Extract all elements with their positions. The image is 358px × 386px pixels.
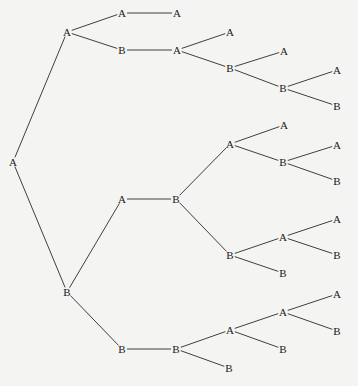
tree-node-a: A <box>226 138 234 150</box>
tree-node-a: A <box>280 45 288 57</box>
tree-node-a: A <box>279 306 287 318</box>
tree-node-a: A <box>333 139 341 151</box>
tree-diagram: AAAABAABABABBABAABABBABABBBABABAB <box>0 0 358 386</box>
tree-edge <box>181 332 226 348</box>
tree-edge <box>288 147 332 161</box>
tree-node-b: B <box>63 286 70 298</box>
tree-node-b: B <box>225 362 232 374</box>
tree-node-b: B <box>118 343 125 355</box>
tree-node-a: A <box>280 119 288 131</box>
tree-node-a: A <box>333 213 341 225</box>
tree-node-a: A <box>279 231 287 243</box>
tree-node-a: A <box>118 7 126 19</box>
tree-node-a: A <box>333 288 341 300</box>
tree-node-b: B <box>279 82 286 94</box>
tree-edge <box>288 164 333 180</box>
tree-node-b: B <box>172 193 179 205</box>
tree-node-a: A <box>333 64 341 76</box>
tree-node-b: B <box>333 249 340 261</box>
tree-node-a: A <box>173 44 181 56</box>
tree-edge <box>235 70 279 86</box>
tree-edge <box>15 37 65 158</box>
tree-edge <box>288 296 333 311</box>
tree-edge <box>288 239 333 254</box>
tree-node-b: B <box>226 249 233 261</box>
tree-edge <box>182 52 226 67</box>
tree-edge <box>235 146 279 161</box>
tree-node-b: B <box>226 62 233 74</box>
tree-edge <box>15 167 65 288</box>
tree-node-b: B <box>279 267 286 279</box>
tree-edge <box>235 257 279 272</box>
tree-edge <box>181 351 225 367</box>
tree-edge <box>70 203 120 287</box>
tree-node-b: B <box>279 156 286 168</box>
tree-edge <box>70 296 118 346</box>
tree-edge <box>235 314 279 329</box>
tree-node-b: B <box>118 44 125 56</box>
tree-edge <box>235 127 280 143</box>
tree-node-b: B <box>279 343 286 355</box>
tree-node-a: A <box>9 156 17 168</box>
tree-node-a: A <box>118 193 126 205</box>
nodes-layer: AAAABAABABABBABAABABBABABBBABABAB <box>9 7 341 374</box>
tree-edge <box>288 72 333 87</box>
tree-node-b: B <box>333 325 340 337</box>
tree-edge <box>179 203 226 252</box>
tree-node-b: B <box>333 175 340 187</box>
tree-edge <box>235 239 279 254</box>
tree-edge <box>72 34 117 49</box>
tree-edge <box>288 90 333 105</box>
tree-edge <box>288 221 333 236</box>
tree-edge <box>182 34 226 49</box>
tree-node-a: A <box>226 26 234 38</box>
tree-edge <box>235 332 279 348</box>
tree-edge <box>235 53 279 67</box>
tree-node-b: B <box>333 100 340 112</box>
tree-node-a: A <box>173 7 181 19</box>
tree-edge <box>288 314 333 330</box>
tree-edge <box>72 15 118 31</box>
tree-canvas: AAAABAABABABBABAABABBABABBBABABAB <box>0 0 358 386</box>
tree-node-a: A <box>226 324 234 336</box>
tree-node-b: B <box>172 343 179 355</box>
tree-edge <box>180 148 227 196</box>
tree-node-a: A <box>63 26 71 38</box>
